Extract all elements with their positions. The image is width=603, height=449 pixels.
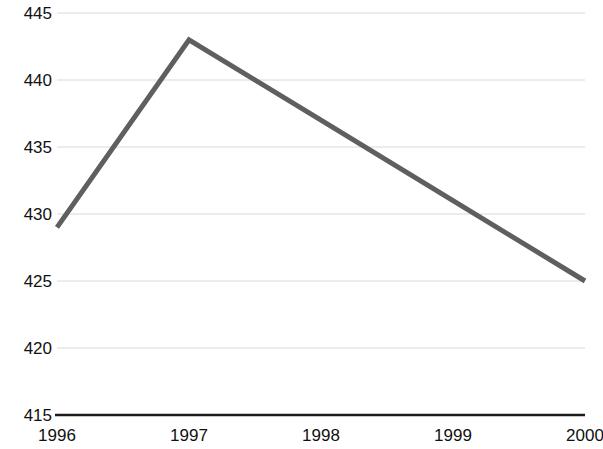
line-chart: 445440435430425420415 199619971998199920…: [0, 0, 603, 449]
x-axis-tick-labels: 19961997199819992000: [0, 0, 603, 449]
x-tick-label: 2000: [566, 427, 603, 444]
x-tick-label: 1997: [170, 427, 208, 444]
x-tick-label: 1996: [38, 427, 76, 444]
x-tick-label: 1999: [434, 427, 472, 444]
x-tick-label: 1998: [302, 427, 340, 444]
